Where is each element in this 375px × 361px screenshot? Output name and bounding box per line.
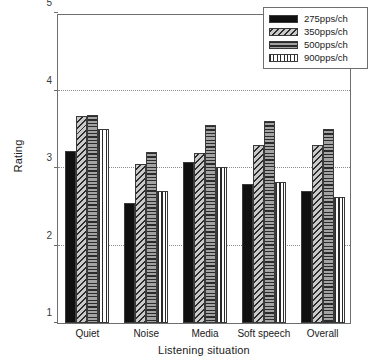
x-axis-tick-label: Media <box>191 328 218 339</box>
bar <box>275 182 286 323</box>
bar <box>301 191 312 323</box>
y-axis-tick-mark <box>54 12 58 13</box>
legend-label: 350pps/ch <box>304 27 348 37</box>
y-axis-label: Rating <box>12 116 24 196</box>
bar <box>124 203 135 323</box>
y-axis-tick-mark <box>54 322 58 323</box>
bar-group <box>183 15 227 323</box>
y-axis-tick-label: 4 <box>46 74 52 85</box>
x-axis-tick-label: Soft speech <box>237 328 290 339</box>
legend-swatch-icon <box>269 54 298 62</box>
bar <box>205 125 216 323</box>
y-axis-tick-label: 5 <box>46 0 52 8</box>
bar <box>146 152 157 323</box>
bar-group <box>65 15 109 323</box>
legend-item: 350pps/ch <box>269 25 362 38</box>
bar <box>135 164 146 323</box>
bar <box>157 191 168 323</box>
legend-swatch-icon <box>269 15 298 23</box>
y-axis-tick-label: 3 <box>46 152 52 163</box>
legend-swatch-icon <box>269 28 298 36</box>
legend-swatch-icon <box>269 41 298 49</box>
y-axis-tick-mark <box>54 90 58 91</box>
bar-group <box>124 15 168 323</box>
legend-item: 275pps/ch <box>269 12 362 25</box>
y-axis-tick-label: 1 <box>46 307 52 318</box>
x-axis-tick-label: Quiet <box>75 328 99 339</box>
bar <box>87 115 98 323</box>
chart-legend: 275pps/ch350pps/ch500pps/ch900pps/ch <box>263 7 368 69</box>
legend-label: 900pps/ch <box>304 53 348 63</box>
bar-chart-figure: Rating Listening situation 12345 QuietNo… <box>0 0 375 361</box>
y-axis-tick-mark <box>54 167 58 168</box>
bar <box>76 116 87 323</box>
bar <box>253 145 264 323</box>
legend-label: 500pps/ch <box>304 40 348 50</box>
y-axis-tick-mark <box>54 245 58 246</box>
bar <box>98 129 109 323</box>
bar <box>312 145 323 323</box>
bar <box>216 167 227 323</box>
x-axis-tick-label: Noise <box>133 328 159 339</box>
x-axis-label: Listening situation <box>57 344 351 356</box>
bar <box>323 129 334 323</box>
bar <box>264 121 275 323</box>
bar <box>242 184 253 324</box>
bar <box>65 151 76 323</box>
bar <box>194 153 205 324</box>
legend-label: 275pps/ch <box>304 14 348 24</box>
legend-item: 500pps/ch <box>269 38 362 51</box>
x-axis-tick-label: Overall <box>307 328 339 339</box>
bar <box>334 197 345 323</box>
bar <box>183 162 194 323</box>
legend-item: 900pps/ch <box>269 51 362 64</box>
y-axis-tick-label: 2 <box>46 229 52 240</box>
